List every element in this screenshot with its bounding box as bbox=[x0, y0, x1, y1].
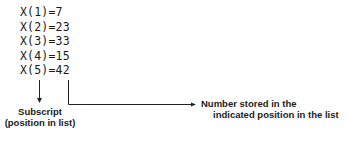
value-arrowhead-icon bbox=[191, 103, 196, 107]
subscript-label: Subscript (position in list) bbox=[4, 106, 76, 128]
value-label: Number stored in the indicated position … bbox=[201, 98, 350, 120]
value-connector-line bbox=[69, 80, 193, 105]
subscript-arrowhead-icon bbox=[37, 98, 42, 103]
